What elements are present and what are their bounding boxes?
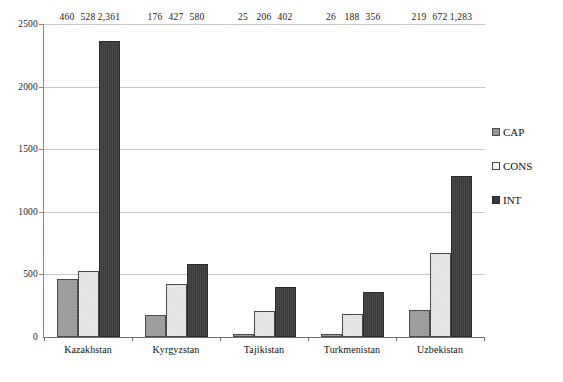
- legend: CAP CONS INT: [492, 126, 532, 206]
- x-tick-mark-1: [132, 337, 133, 341]
- bar-slot-cap: 176: [145, 24, 166, 337]
- bar-slot-cons: 188: [342, 24, 363, 337]
- x-axis-label-uzbekistan: Uzbekistan: [396, 344, 484, 356]
- legend-item-cap[interactable]: CAP: [492, 126, 532, 138]
- bar-slot-cap: 460: [57, 24, 78, 337]
- y-tick-label-500: 500: [4, 269, 38, 279]
- bar-value-cap: 25: [238, 12, 248, 22]
- bar-slot-cap: 219: [409, 24, 430, 337]
- bar-int[interactable]: [363, 292, 384, 337]
- x-axis-label-kazakhstan: Kazakhstan: [44, 344, 132, 356]
- legend-swatch-cap-icon: [492, 128, 500, 136]
- bar-value-cap: 176: [148, 12, 163, 22]
- x-tick-mark-2: [220, 337, 221, 341]
- bar-int[interactable]: [451, 176, 472, 337]
- bar-cap[interactable]: [57, 279, 78, 337]
- bar-group-tajikistan: 25 206 402: [220, 24, 308, 337]
- y-tick-label-2000: 2000: [4, 82, 38, 92]
- bar-slot-cap: 25: [233, 24, 254, 337]
- bar-cap[interactable]: [321, 334, 342, 337]
- bar-cons[interactable]: [430, 253, 451, 337]
- x-axis-label-tajikistan: Tajikistan: [220, 344, 308, 356]
- bar-cons[interactable]: [78, 271, 99, 337]
- y-tick-label-1000: 1000: [4, 207, 38, 217]
- bar-slot-cons: 427: [166, 24, 187, 337]
- bar-slot-cons: 206: [254, 24, 275, 337]
- bar-int[interactable]: [275, 287, 296, 337]
- x-axis-label-turkmenistan: Turkmenistan: [306, 344, 398, 356]
- legend-item-int[interactable]: INT: [492, 194, 532, 206]
- x-axis-line: [43, 337, 484, 338]
- legend-swatch-cons-icon: [492, 162, 500, 170]
- bar-value-int: 402: [278, 12, 293, 22]
- legend-item-cons[interactable]: CONS: [492, 160, 532, 172]
- plot-area: 460 528 2,361 176: [44, 24, 484, 337]
- bar-cons[interactable]: [166, 284, 187, 338]
- x-axis-label-kyrgyzstan: Kyrgyzstan: [132, 344, 220, 356]
- bar-value-int: 1,283: [450, 12, 472, 22]
- bar-group-kazakhstan: 460 528 2,361: [44, 24, 132, 337]
- bar-value-cons: 672: [433, 12, 448, 22]
- bar-group-uzbekistan: 219 672 1,283: [396, 24, 484, 337]
- bar-value-cap: 460: [60, 12, 75, 22]
- bar-value-cons: 528: [81, 12, 96, 22]
- bar-slot-cons: 528: [78, 24, 99, 337]
- bar-group-kyrgyzstan: 176 427 580: [132, 24, 220, 337]
- legend-label-cons: CONS: [503, 160, 532, 172]
- bar-group-turkmenistan: 26 188 356: [308, 24, 396, 337]
- legend-swatch-int-icon: [492, 196, 500, 204]
- bar-value-cons: 206: [257, 12, 272, 22]
- bar-cons[interactable]: [342, 314, 363, 338]
- bar-slot-cons: 672: [430, 24, 451, 337]
- bar-cons[interactable]: [254, 311, 275, 337]
- bar-value-cons: 188: [345, 12, 360, 22]
- bar-slot-int: 580: [187, 24, 208, 337]
- y-tick-label-2500: 2500: [4, 19, 38, 29]
- bar-cap[interactable]: [409, 310, 430, 337]
- bar-chart: 2500 2000 1500 1000 500 0 460 528: [0, 0, 563, 382]
- y-tick-label-0: 0: [4, 332, 38, 342]
- bar-slot-int: 2,361: [99, 24, 120, 337]
- bar-slot-int: 356: [363, 24, 384, 337]
- bar-value-cons: 427: [169, 12, 184, 22]
- bar-value-int: 356: [366, 12, 381, 22]
- bar-cap[interactable]: [145, 315, 166, 337]
- bar-value-int: 580: [190, 12, 205, 22]
- legend-label-int: INT: [503, 194, 521, 206]
- y-tick-label-1500: 1500: [4, 144, 38, 154]
- bar-slot-int: 402: [275, 24, 296, 337]
- bar-cap[interactable]: [233, 334, 254, 337]
- bar-value-int: 2,361: [98, 12, 120, 22]
- x-tick-mark-3: [308, 337, 309, 341]
- bar-int[interactable]: [187, 264, 208, 337]
- x-tick-mark-5: [484, 337, 485, 341]
- bar-value-cap: 219: [412, 12, 427, 22]
- x-tick-mark-4: [396, 337, 397, 341]
- bar-value-cap: 26: [326, 12, 336, 22]
- bar-slot-cap: 26: [321, 24, 342, 337]
- legend-label-cap: CAP: [503, 126, 524, 138]
- bar-int[interactable]: [99, 41, 120, 337]
- bar-slot-int: 1,283: [451, 24, 472, 337]
- x-tick-mark-0: [44, 337, 45, 341]
